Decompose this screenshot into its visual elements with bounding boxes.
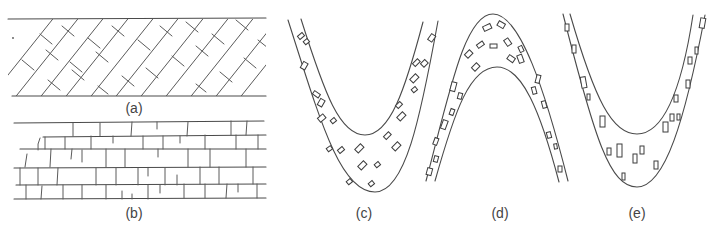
panel-b-drawing bbox=[14, 121, 266, 199]
panel-e-drawing bbox=[563, 14, 706, 187]
panel-e-label: (e) bbox=[628, 206, 645, 220]
panel-a-label: (a) bbox=[125, 101, 142, 115]
panel-c-drawing bbox=[288, 19, 438, 192]
figure-canvas bbox=[0, 0, 710, 234]
panel-d-drawing bbox=[426, 14, 568, 182]
panel-a-drawing bbox=[0, 10, 335, 110]
panel-b-label: (b) bbox=[125, 206, 142, 220]
panel-d-label: (d) bbox=[491, 206, 508, 220]
panel-c-label: (c) bbox=[356, 206, 372, 220]
